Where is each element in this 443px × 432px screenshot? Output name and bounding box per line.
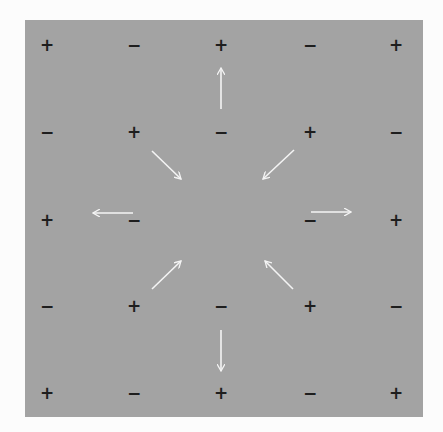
arrow-layer	[0, 0, 443, 432]
diagram: +−+−+−+−+−+−−+−+−+−+−+−+	[0, 0, 443, 432]
arrow-lower-left-inward-icon	[152, 261, 181, 289]
arrow-upper-left-inward-icon	[152, 151, 181, 179]
arrow-upper-right-inward-icon	[263, 150, 294, 179]
arrow-lower-right-inward-icon	[265, 261, 293, 289]
